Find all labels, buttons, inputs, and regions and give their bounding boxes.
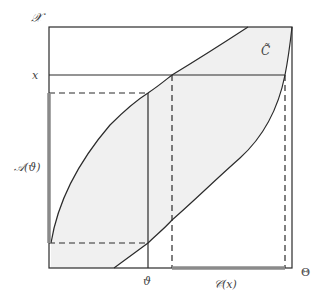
a-theta-label: 𝒜(ϑ) (14, 161, 40, 174)
x-level-label: x (32, 69, 39, 82)
c-x-label: 𝒞(x) (214, 278, 237, 291)
y-axis-label: 𝒳 (31, 10, 46, 25)
set-valued-map-diagram: 𝒳 x C̃ 𝒜(ϑ) ϑ 𝒞(x) Θ (0, 0, 317, 298)
x-axis-label: Θ (301, 266, 310, 279)
theta-label: ϑ (143, 275, 151, 288)
c-tilde-label: C̃ (261, 43, 270, 58)
